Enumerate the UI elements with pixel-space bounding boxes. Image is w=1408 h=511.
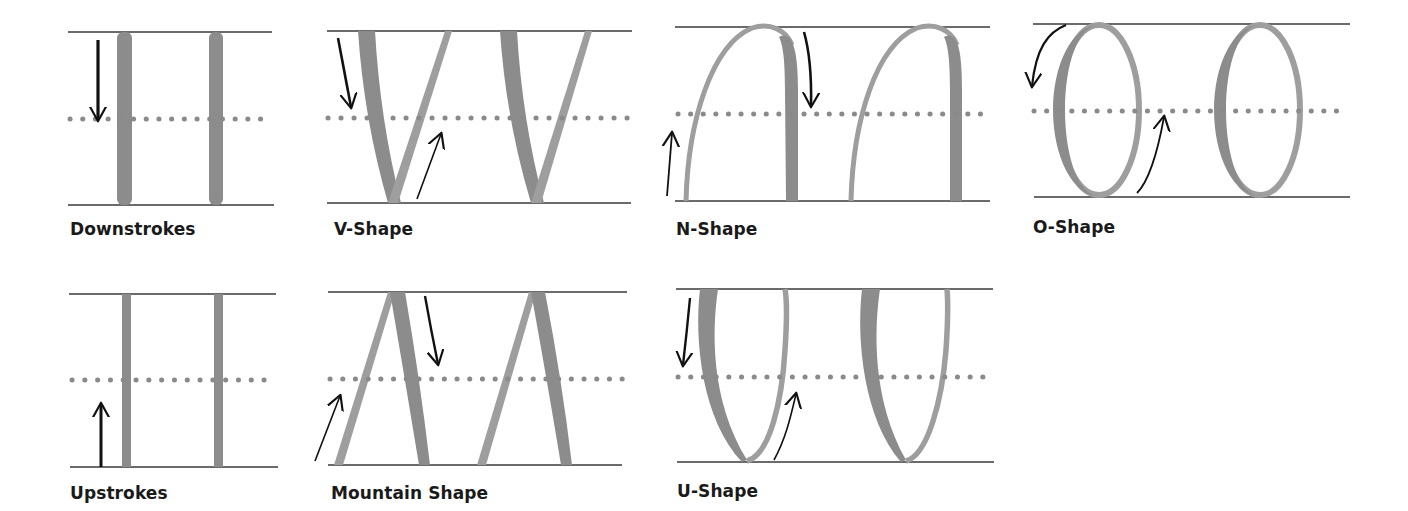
- thin-upstroke: [906, 289, 948, 461]
- label-o-shape: O-Shape: [1033, 217, 1115, 237]
- label-u-shape: U-Shape: [677, 481, 758, 501]
- down-arrow-icon: [683, 298, 690, 365]
- panel-u-shape: U-Shape: [0, 0, 1000, 511]
- u-shape-diagram: [0, 0, 1000, 511]
